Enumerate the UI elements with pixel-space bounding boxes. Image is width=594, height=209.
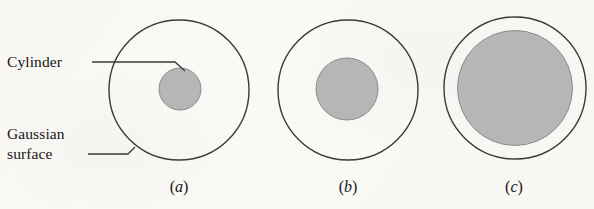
caption-b-letter: b: [344, 178, 352, 195]
caption-a-letter: a: [175, 178, 183, 195]
caption-c: (c): [484, 178, 544, 196]
caption-c-letter: c: [510, 178, 517, 195]
cylinder-circle-a: [159, 68, 201, 110]
caption-b-close-paren: ): [352, 178, 357, 195]
cylinder-circle-c: [458, 31, 573, 146]
cylinder-label: Cylinder: [7, 52, 62, 72]
gaussian-surface-label-line1: Gaussian: [7, 125, 65, 142]
gaussian-surface-label: Gaussiansurface: [7, 124, 65, 164]
gaussian-surface-label-line2: surface: [7, 145, 52, 162]
caption-a-close-paren: ): [183, 178, 188, 195]
panel-b: [278, 20, 418, 160]
caption-c-close-paren: ): [518, 178, 523, 195]
gaussian-surface-leader-line: [88, 147, 135, 154]
panel-a: [109, 20, 249, 160]
caption-a: (a): [149, 178, 209, 196]
figure-root: Cylinder Gaussiansurface (a) (b) (c): [0, 0, 594, 209]
caption-b: (b): [318, 178, 378, 196]
panel-c: [444, 17, 586, 159]
cylinder-circle-b: [316, 58, 378, 120]
